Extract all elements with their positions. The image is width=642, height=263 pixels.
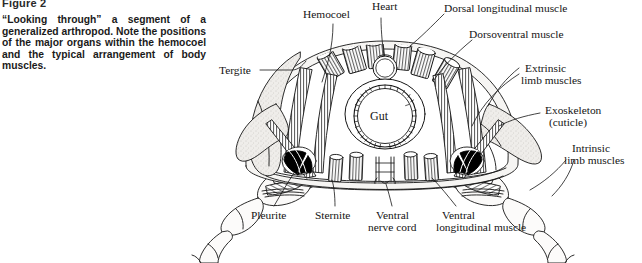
label-extrinsic-limb-muscles-line2: limb muscles [521, 74, 581, 86]
leader-dorsal-longitudinal [410, 14, 444, 46]
label-ventral-longitudinal-muscle-line1: Ventral [442, 209, 475, 221]
label-ventral-nerve-cord-line2: nerve cord [368, 221, 416, 233]
label-tergite: Tergite [219, 64, 251, 76]
label-exoskeleton-line2: (cuticle) [549, 116, 587, 128]
label-extrinsic-limb-muscles-line1: Extrinsic [525, 62, 566, 74]
label-intrinsic-limb-muscles-line1: Intrinsic [572, 142, 610, 154]
label-gut: Gut [370, 109, 388, 124]
label-sternite: Sternite [315, 209, 350, 221]
label-heart: Heart [372, 0, 397, 12]
label-exoskeleton-line1: Exoskeleton [545, 104, 601, 116]
label-ventral-longitudinal-muscle-line2: longitudinal muscle [436, 221, 526, 233]
label-intrinsic-limb-muscles-line2: limb muscles [564, 154, 624, 166]
label-dorsoventral-muscle: Dorsoventral muscle [469, 28, 564, 40]
label-ventral-nerve-cord-line1: Ventral [376, 209, 409, 221]
label-pleurite: Pleurite [251, 209, 286, 221]
label-dorsal-longitudinal-muscle: Dorsal longitudinal muscle [444, 2, 567, 14]
label-hemocoel: Hemocoel [303, 8, 350, 20]
leader-intrinsic-a [530, 160, 566, 190]
